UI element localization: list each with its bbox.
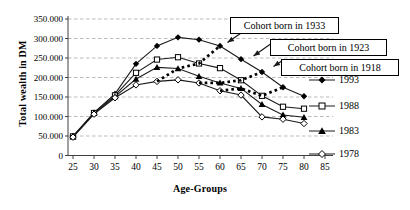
y-tick-label: 250.000: [34, 53, 64, 63]
y-axis-title: Total wealth in DM: [17, 29, 28, 139]
y-tick-label: 350.000: [34, 14, 64, 24]
annotation-cohort-1923: Cohort born in 1923: [270, 39, 387, 56]
x-tick-label: 35: [110, 162, 120, 172]
legend-label-1983: 1983: [339, 126, 359, 136]
x-tick-label: 55: [194, 162, 204, 172]
arrow-cohort-1933-head: [228, 37, 235, 43]
series-marker-1988: [301, 106, 306, 111]
annotation-cohort-1933: Cohort born in 1933: [230, 17, 339, 34]
x-tick-label: 70: [257, 162, 267, 172]
legend-label-1988: 1988: [339, 101, 359, 111]
legend-item-1978: 1978: [308, 148, 359, 160]
cohort-dotted-line-1933: [157, 46, 220, 81]
y-tick-label: 50.000: [38, 131, 63, 141]
y-tick-label: 200.000: [34, 73, 64, 83]
series-marker-1978: [175, 77, 181, 83]
series-marker-1993: [301, 93, 307, 99]
x-tick-label: 80: [299, 162, 309, 172]
arrow-cohort-1918-head: [274, 61, 281, 67]
series-marker-1993: [196, 36, 202, 42]
x-tick-label: 60: [215, 162, 225, 172]
legend-label-1993: 1993: [339, 75, 359, 85]
series-marker-1988: [280, 104, 285, 109]
legend-label-1978: 1978: [339, 149, 359, 159]
series-marker-1983: [133, 76, 140, 82]
series-marker-1988: [154, 57, 159, 62]
series-marker-1988: [175, 55, 180, 60]
legend-item-1988: 1988: [308, 100, 359, 112]
x-tick-label: 30: [89, 162, 99, 172]
series-marker-1993: [175, 34, 181, 40]
x-tick-label: 75: [278, 162, 288, 172]
x-axis-title: Age-Groups: [130, 183, 270, 194]
legend-item-1983: 1983: [308, 125, 359, 137]
wealth-age-chart: 050.000100.000150.000200.000250.000300.0…: [0, 0, 410, 210]
x-tick-label: 85: [320, 162, 330, 172]
series-marker-1978: [133, 82, 139, 88]
legend-marker-1983-filled-triangle-icon: [308, 126, 336, 136]
legend-marker-1978-open-diamond-icon: [308, 149, 336, 159]
x-tick-label: 45: [152, 162, 162, 172]
y-tick-label: 300.000: [34, 34, 64, 44]
y-tick-label: 0: [59, 151, 64, 161]
x-tick-label: 65: [236, 162, 246, 172]
x-tick-label: 40: [131, 162, 141, 172]
series-marker-1988: [133, 70, 138, 75]
legend-item-1993: 1993: [308, 74, 359, 86]
x-tick-label: 50: [173, 162, 183, 172]
series-marker-1978: [301, 120, 307, 126]
series-marker-1993: [238, 56, 244, 62]
y-tick-label: 150.000: [34, 92, 64, 102]
arrow-cohort-1923-head: [254, 50, 261, 56]
y-tick-label: 100.000: [34, 112, 64, 122]
series-marker-1988: [217, 66, 222, 71]
legend-marker-1993-filled-diamond-icon: [308, 75, 336, 85]
x-tick-label: 25: [68, 162, 78, 172]
legend-marker-1988-open-square-icon: [308, 101, 336, 111]
